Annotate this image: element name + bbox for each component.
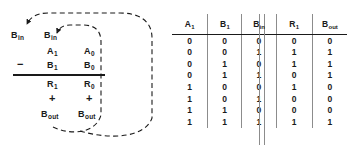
minus-operator: −	[17, 59, 23, 70]
column-header-r1: R1	[276, 14, 312, 35]
cell-bout: 0	[312, 105, 347, 117]
minuend-low-label: A0	[84, 47, 95, 56]
header-base: B	[253, 19, 259, 29]
cell-a1: 0	[172, 70, 208, 82]
cell-a1: 1	[172, 93, 208, 105]
header-subscript: out	[329, 24, 338, 30]
cell-a1: 0	[172, 58, 208, 70]
cell-r1: 0	[276, 70, 312, 82]
table-row: 00000	[172, 35, 347, 47]
cell-b1: 1	[208, 70, 242, 82]
header-subscript: in	[260, 24, 265, 30]
cell-b1: 1	[208, 58, 242, 70]
cell-b1: 0	[208, 81, 242, 93]
column-header-bout: Bout	[312, 14, 347, 35]
table-row: 10100	[172, 93, 347, 105]
header-subscript: 1	[191, 24, 194, 30]
cell-r1: 1	[276, 58, 312, 70]
borrow-out-high-label: Bout	[41, 110, 58, 119]
header-subscript: 1	[226, 24, 229, 30]
column-header-bin: Bin	[242, 14, 276, 35]
cell-bout: 1	[312, 47, 347, 59]
borrow-out-low-label: Bout	[78, 110, 95, 119]
cell-bout: 1	[312, 58, 347, 70]
cell-bin: 1	[242, 93, 276, 105]
subtraction-rule	[13, 74, 105, 76]
cell-a1: 1	[172, 81, 208, 93]
subtrahend-high-label: B1	[47, 61, 58, 70]
borrow-in-left-label: Bin	[11, 31, 24, 40]
cell-bout: 0	[312, 81, 347, 93]
cell-a1: 1	[172, 116, 208, 128]
cell-bout: 0	[312, 93, 347, 105]
cell-a1: 1	[172, 105, 208, 117]
header-base: R	[289, 19, 295, 29]
cell-r1: 1	[276, 47, 312, 59]
column-header-b1: B1	[208, 14, 242, 35]
cell-bin: 1	[242, 47, 276, 59]
cell-bout: 1	[312, 116, 347, 128]
table-row: 00111	[172, 47, 347, 59]
cell-bin: 1	[242, 116, 276, 128]
cell-a1: 0	[172, 35, 208, 47]
table-row: 11111	[172, 116, 347, 128]
header-base: B	[322, 19, 328, 29]
cell-b1: 1	[208, 116, 242, 128]
result-high-label: R1	[47, 80, 58, 89]
cell-r1: 1	[276, 116, 312, 128]
column-header-a1: A1	[172, 14, 208, 35]
table-row: 11000	[172, 105, 347, 117]
cell-bin: 0	[242, 35, 276, 47]
table-header-row: A1 B1 Bin R1 Bout	[172, 14, 347, 35]
subtraction-diagram: Bin Bin A1 A0 − B1 B0 R1 R0 + + Bout Bou…	[0, 0, 170, 151]
cell-bout: 1	[312, 70, 347, 82]
plus-operator-high: +	[49, 93, 55, 104]
cell-bin: 0	[242, 58, 276, 70]
cell-bin: 1	[242, 70, 276, 82]
table-row: 01101	[172, 70, 347, 82]
table-row: 10010	[172, 81, 347, 93]
cell-b1: 0	[208, 35, 242, 47]
result-low-label: R0	[84, 80, 95, 89]
cell-bin: 0	[242, 105, 276, 117]
cell-a1: 0	[172, 47, 208, 59]
cell-b1: 1	[208, 105, 242, 117]
plus-operator-low: +	[86, 93, 92, 104]
cell-b1: 0	[208, 47, 242, 59]
cell-b1: 0	[208, 93, 242, 105]
table-row: 01011	[172, 58, 347, 70]
subtrahend-low-label: B0	[84, 61, 95, 70]
minuend-high-label: A1	[47, 47, 58, 56]
cell-r1: 0	[276, 93, 312, 105]
borrow-in-right-label: Bin	[44, 31, 57, 40]
cell-bin: 0	[242, 81, 276, 93]
cell-r1: 0	[276, 105, 312, 117]
header-subscript: 1	[296, 24, 299, 30]
cell-r1: 0	[276, 35, 312, 47]
cell-r1: 1	[276, 81, 312, 93]
cell-bout: 0	[312, 35, 347, 47]
subtractor-truth-table: A1 B1 Bin R1 Bout 0000000111010110110110…	[172, 14, 347, 145]
